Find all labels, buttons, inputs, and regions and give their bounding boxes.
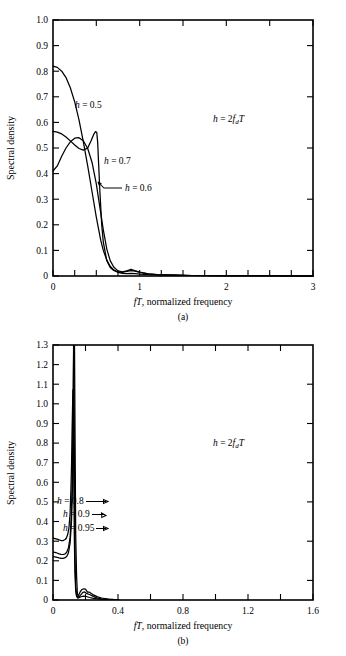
plot-frame-a — [53, 20, 313, 276]
svg-text:0.1: 0.1 — [36, 576, 48, 586]
svg-text:1.1: 1.1 — [36, 380, 48, 390]
svg-text:0: 0 — [51, 606, 56, 616]
series-label-h-0.7-a: h = 0.7 — [104, 156, 131, 166]
svg-text:0.3: 0.3 — [36, 195, 48, 205]
svg-text:1.2: 1.2 — [242, 606, 254, 616]
x-tick-labels-b: 0 0.4 0.8 1.2 1.6 — [51, 606, 320, 616]
svg-text:0.5: 0.5 — [36, 143, 48, 153]
series-label-h-0.8-b: h = 0.8 — [57, 496, 84, 506]
svg-text:0: 0 — [43, 271, 48, 281]
svg-text:1.6: 1.6 — [307, 606, 319, 616]
annotation-h-formula-b: h = 2fdT — [213, 438, 245, 450]
curve-h-0.8-b — [53, 390, 119, 600]
y-axis-title-b: Spectral density — [5, 441, 16, 505]
x-axis-ticks-a — [53, 20, 313, 276]
svg-text:0.9: 0.9 — [36, 419, 48, 429]
svg-text:0.4: 0.4 — [36, 169, 48, 179]
y-axis-ticks-a — [53, 20, 59, 276]
arrowhead-h-0.9-b — [102, 513, 107, 518]
chart-b-svg: 0 0.1 0.2 0.3 0.4 0.5 0.6 0.7 0.8 0.9 1.… — [0, 328, 346, 656]
svg-text:1.0: 1.0 — [36, 399, 48, 409]
svg-text:0.6: 0.6 — [36, 478, 48, 488]
svg-text:0.7: 0.7 — [36, 458, 48, 468]
x-axis-title-a: fT, normalized frequency — [134, 296, 233, 307]
svg-text:1: 1 — [137, 282, 142, 292]
series-label-h-0.95-b: h = 0.95 — [63, 523, 95, 533]
x-axis-ticks-b — [53, 345, 313, 600]
svg-text:0.7: 0.7 — [36, 92, 48, 102]
curve-h-0.5-a — [53, 66, 313, 276]
svg-text:0: 0 — [43, 595, 48, 605]
chart-a-svg: 0 0.1 0.2 0.3 0.4 0.5 0.6 0.7 0.8 0.9 1.… — [0, 0, 346, 328]
svg-text:0.8: 0.8 — [36, 67, 48, 77]
curve-h-0.95-b — [53, 330, 119, 600]
svg-text:0.2: 0.2 — [36, 556, 48, 566]
svg-text:2: 2 — [224, 282, 229, 292]
figure-panel-b: 0 0.1 0.2 0.3 0.4 0.5 0.6 0.7 0.8 0.9 1.… — [0, 328, 346, 656]
svg-text:0.6: 0.6 — [36, 118, 48, 128]
x-axis-title-b: fT, normalized frequency — [134, 620, 233, 631]
svg-text:0.5: 0.5 — [36, 497, 48, 507]
series-label-h-0.5-a: h = 0.5 — [75, 100, 102, 110]
svg-text:1.3: 1.3 — [36, 340, 48, 350]
annotation-h-formula-a: h = 2fdT — [213, 114, 245, 126]
y-tick-labels-a: 0 0.1 0.2 0.3 0.4 0.5 0.6 0.7 0.8 0.9 1.… — [36, 15, 48, 281]
svg-text:1.0: 1.0 — [36, 15, 48, 25]
svg-text:3: 3 — [311, 282, 316, 292]
panel-caption-a: (a) — [178, 312, 189, 323]
x-tick-labels-a: 0 1 2 3 — [51, 282, 316, 292]
panel-caption-b: (b) — [177, 636, 188, 647]
svg-text:0.3: 0.3 — [36, 537, 48, 547]
svg-text:0.4: 0.4 — [112, 606, 124, 616]
curve-h-0.6-a — [53, 138, 313, 276]
y-tick-labels-b: 0 0.1 0.2 0.3 0.4 0.5 0.6 0.7 0.8 0.9 1.… — [36, 340, 48, 605]
y-axis-title-a: Spectral density — [5, 116, 16, 180]
curve-h-0.9-b — [53, 330, 119, 600]
plot-frame-b — [53, 345, 313, 600]
series-label-h-0.9-b: h = 0.9 — [63, 509, 90, 519]
curve-h-0.7-a — [53, 131, 313, 276]
svg-text:0.8: 0.8 — [36, 438, 48, 448]
svg-text:0.9: 0.9 — [36, 41, 48, 51]
svg-text:0.1: 0.1 — [36, 246, 48, 256]
svg-text:0.4: 0.4 — [36, 517, 48, 527]
svg-text:0.2: 0.2 — [36, 220, 48, 230]
y-axis-ticks-b — [53, 345, 313, 600]
svg-text:0.8: 0.8 — [177, 606, 189, 616]
svg-text:0: 0 — [51, 282, 56, 292]
svg-text:1.2: 1.2 — [36, 360, 48, 370]
leader-line-h-0.6-a — [98, 182, 122, 188]
series-label-h-0.6-a: h = 0.6 — [125, 183, 152, 193]
figure-panel-a: 0 0.1 0.2 0.3 0.4 0.5 0.6 0.7 0.8 0.9 1.… — [0, 0, 346, 328]
